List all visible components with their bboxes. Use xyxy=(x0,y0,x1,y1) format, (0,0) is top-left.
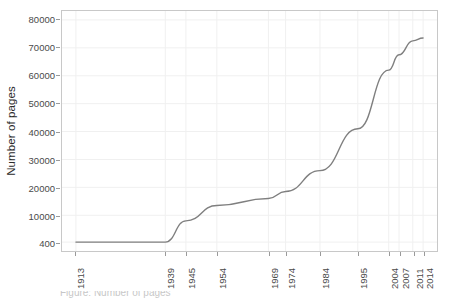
x-axis-tick-label: 1974 xyxy=(269,257,303,291)
x-axis-tick-labels: 1913193919451954196919741984199520042007… xyxy=(61,257,438,291)
x-axis-tick-mark xyxy=(320,252,321,256)
figure-caption: Figure: Number of pages xyxy=(60,291,390,298)
figure-caption-text: Figure: Number of pages xyxy=(60,291,390,298)
y-axis-tick-label: 40000 xyxy=(29,126,55,137)
x-axis-tick-label-text: 1995 xyxy=(358,268,369,289)
y-axis-tick-mark xyxy=(56,19,60,20)
x-axis-tick-label: 1954 xyxy=(200,257,234,291)
x-axis-tick-label: 1995 xyxy=(341,257,375,291)
x-axis-tick-label-text: 1974 xyxy=(286,268,297,289)
y-axis-tick-label: 80000 xyxy=(29,14,55,25)
y-axis-tick-label: 50000 xyxy=(29,98,55,109)
x-axis-tick-mark xyxy=(269,252,270,256)
y-axis-title: Number of pages xyxy=(0,0,22,262)
y-axis-tick-mark xyxy=(56,160,60,161)
x-axis-tick-label: 2014 xyxy=(407,257,441,291)
x-axis-tick-mark xyxy=(400,252,401,256)
chart-container: Number of pages 400100002000030000400005… xyxy=(0,0,452,298)
x-axis-tick-mark xyxy=(165,252,166,256)
plot-panel xyxy=(61,10,438,252)
y-axis-tick-label: 10000 xyxy=(29,210,55,221)
y-axis-title-label: Number of pages xyxy=(5,86,17,176)
x-axis-tick-mark xyxy=(424,252,425,256)
x-axis-tick-mark xyxy=(358,252,359,256)
y-axis-tick-mark xyxy=(56,103,60,104)
y-axis-tick-mark xyxy=(56,243,60,244)
x-axis-tick-mark xyxy=(217,252,218,256)
series-path xyxy=(76,38,423,242)
y-axis-tick-mark xyxy=(56,216,60,217)
y-axis-tick-label: 20000 xyxy=(29,182,55,193)
x-axis-tick-label-text: 2014 xyxy=(424,268,435,289)
y-axis-tick-label: 60000 xyxy=(29,70,55,81)
y-axis-tick-label: 30000 xyxy=(29,154,55,165)
x-axis-tick-label-text: 1984 xyxy=(320,268,331,289)
x-axis-tick-label: 1984 xyxy=(303,257,337,291)
x-axis-tick-label: 1945 xyxy=(169,257,203,291)
x-axis-tick-mark xyxy=(286,252,287,256)
y-axis-tick-mark xyxy=(56,47,60,48)
y-axis-tick-mark xyxy=(56,132,60,133)
x-axis-tick-mark xyxy=(389,252,390,256)
x-axis-tick-mark xyxy=(75,252,76,256)
y-axis-tick-label: 70000 xyxy=(29,42,55,53)
x-axis-tick-mark xyxy=(186,252,187,256)
y-axis-tick-mark xyxy=(56,188,60,189)
x-axis-tick-mark xyxy=(414,252,415,256)
x-axis-tick-label-text: 1945 xyxy=(186,268,197,289)
y-axis-tick-mark xyxy=(56,75,60,76)
data-series-line xyxy=(62,11,437,251)
y-axis-tick-label: 400 xyxy=(39,238,55,249)
x-axis-tick-label-text: 1954 xyxy=(217,268,228,289)
y-axis-tick-labels: 4001000020000300004000050000600007000080… xyxy=(22,0,55,262)
x-axis-tick-label: 1913 xyxy=(58,257,92,291)
x-axis-tick-label-text: 1913 xyxy=(75,268,86,289)
